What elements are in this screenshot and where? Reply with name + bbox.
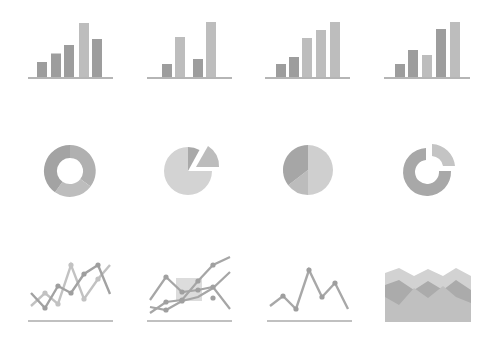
- bar-chart-row: [28, 22, 470, 78]
- bar: [175, 37, 185, 78]
- bar: [64, 45, 74, 78]
- bar-chart-icon-2: [147, 22, 232, 78]
- bar: [436, 29, 446, 78]
- bar: [289, 57, 299, 78]
- bar-chart-icon-1: [28, 23, 113, 78]
- bar: [330, 22, 340, 78]
- bar: [92, 39, 102, 78]
- line-chart-icon-1: [28, 262, 113, 321]
- pie-chart-row: [44, 144, 455, 197]
- split-donut-chart-icon: [403, 144, 455, 196]
- chart-icon-sheet: [0, 0, 494, 340]
- line-chart-icon-3: [267, 267, 352, 321]
- bar: [302, 38, 312, 78]
- bar: [162, 64, 172, 78]
- pie-chart-icon: [283, 145, 333, 195]
- donut-chart-icon: [44, 145, 96, 197]
- bar: [408, 50, 418, 78]
- bar: [37, 62, 47, 78]
- bar: [395, 64, 405, 78]
- bar: [316, 30, 326, 78]
- bar: [79, 23, 89, 78]
- bar-chart-icon-4: [384, 22, 470, 78]
- bar: [450, 22, 460, 78]
- bar: [422, 55, 432, 78]
- bar-chart-icon-3: [265, 22, 350, 78]
- stacked-area-chart-icon: [385, 268, 471, 322]
- bar: [51, 54, 61, 79]
- bar: [206, 22, 216, 78]
- exploded-pie-chart-icon: [164, 146, 219, 195]
- bar: [193, 59, 203, 78]
- multi-line-chart-icon: [147, 257, 232, 321]
- bar: [276, 64, 286, 78]
- line-chart-row: [28, 257, 471, 322]
